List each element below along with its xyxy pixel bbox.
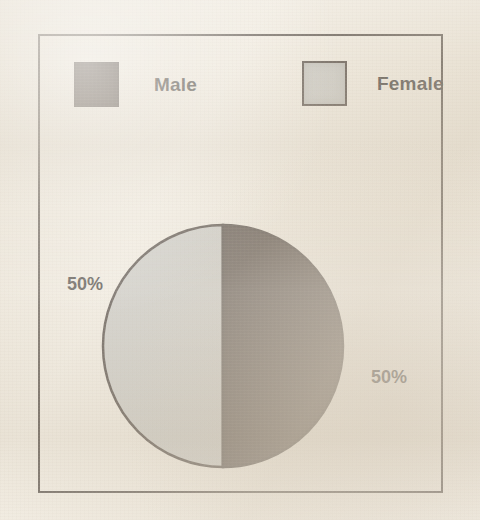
pie-slice-male[interactable]: [223, 225, 343, 467]
pie-value-label-female: 50%: [67, 274, 103, 295]
pie-slice-female[interactable]: [103, 225, 223, 467]
chart-frame: Male Female 50% 50%: [38, 34, 443, 493]
pie-value-label-male: 50%: [371, 367, 407, 388]
pie-chart-area: 50% 50%: [40, 36, 441, 491]
pie-chart-graphic: [94, 216, 352, 476]
